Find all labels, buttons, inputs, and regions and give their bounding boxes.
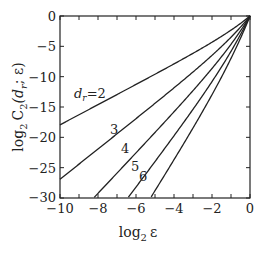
x-tick-labels: −10 −8 −6 −4 −2 0 — [46, 201, 254, 216]
y-tick-25: −25 — [29, 161, 56, 176]
y-tick-10: −10 — [29, 70, 56, 85]
x-tick-m10: −10 — [46, 201, 73, 216]
y-axis-title: log2C2(dr; ε) — [10, 62, 29, 151]
y-tick-15: −15 — [29, 100, 56, 115]
x-tick-m6: −6 — [126, 201, 145, 216]
axis-ticks — [60, 16, 250, 198]
curve-label-d2: dr=2 — [74, 86, 106, 103]
x-tick-m2: −2 — [202, 201, 221, 216]
correlation-sum-chart: 0 −5 −10 −15 −20 −25 −30 −10 −8 −6 −4 −2… — [0, 0, 267, 253]
y-tick-0: 0 — [48, 9, 56, 24]
curves — [60, 16, 250, 197]
y-tick-5: −5 — [37, 39, 56, 54]
curve-dr2 — [60, 16, 250, 125]
curve-dr4 — [94, 16, 250, 197]
curve-label-3: 3 — [110, 122, 118, 137]
x-tick-m4: −4 — [164, 201, 183, 216]
y-tick-20: −20 — [29, 130, 56, 145]
x-axis-title: log2ε — [119, 224, 158, 243]
curve-label-4: 4 — [121, 141, 129, 156]
y-tick-labels: 0 −5 −10 −15 −20 −25 −30 — [29, 9, 56, 205]
x-tick-0: 0 — [246, 201, 254, 216]
curve-label-6: 6 — [139, 169, 147, 184]
x-tick-m8: −8 — [88, 201, 107, 216]
plot-frame — [60, 16, 250, 198]
